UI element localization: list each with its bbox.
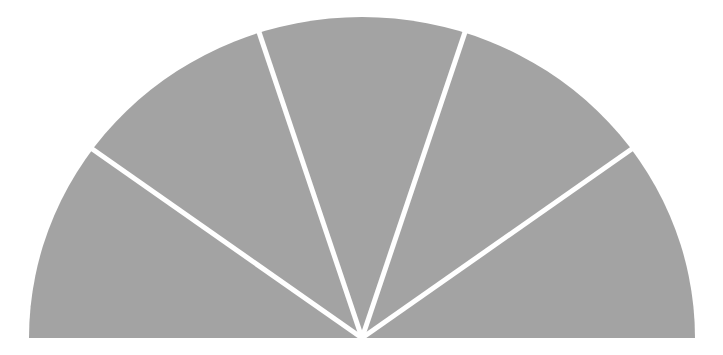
- semicircle-fan-diagram: [0, 0, 723, 355]
- diagram-canvas: [0, 0, 723, 355]
